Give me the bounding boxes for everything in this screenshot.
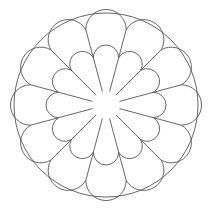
outer-circle [14, 13, 198, 197]
outer-petal-dome [161, 47, 191, 85]
radial-line [120, 109, 182, 126]
radial-line [110, 119, 127, 181]
outer-petal-dome [161, 125, 191, 163]
inner-petal-dome [93, 152, 118, 165]
outer-petal-dome [181, 85, 201, 125]
radial-line [86, 119, 103, 181]
inner-petal-dome [70, 51, 94, 70]
outer-petal-dome [126, 160, 164, 190]
outer-petal-dome [86, 180, 126, 200]
inner-petal-dome [93, 45, 118, 58]
inner-petal-dome [119, 51, 143, 70]
radial-line [51, 115, 96, 160]
radial-line [31, 85, 93, 102]
outer-petal-dome [48, 160, 86, 190]
radial-line [86, 30, 103, 92]
inner-petal-dome [70, 140, 94, 159]
inner-petal-dome [52, 69, 71, 93]
inner-petal-dome [153, 92, 166, 117]
outer-petal-dome [86, 9, 126, 29]
inner-petal-dome [141, 69, 160, 93]
radial-line [51, 50, 96, 95]
rosette-svg [0, 0, 210, 209]
radial-line [120, 85, 182, 102]
outer-petal-dome [21, 125, 51, 163]
rosette-diagram [0, 0, 210, 209]
outer-petal-dome [48, 20, 86, 50]
outer-petal-dome [10, 85, 30, 125]
inner-petal-dome [46, 92, 59, 117]
inner-petal-dome [119, 140, 143, 159]
radial-line [116, 50, 161, 95]
outer-petal-dome [21, 47, 51, 85]
outer-petal-dome [126, 20, 164, 50]
radial-line [116, 115, 161, 160]
inner-petal-dome [141, 118, 160, 142]
radial-line [110, 30, 127, 92]
inner-petal-dome [52, 118, 71, 142]
radial-line [31, 109, 93, 126]
